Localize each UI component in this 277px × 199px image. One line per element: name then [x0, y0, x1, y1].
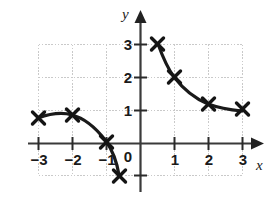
x-tick-label-neg2: −2: [63, 152, 83, 167]
x-axis: [28, 138, 264, 150]
y-tick-label-1: 1: [116, 103, 132, 118]
x-tick-label-2: 2: [199, 152, 219, 167]
x-tick-label-neg1: −1: [97, 152, 117, 167]
x-tick-label-neg3: −3: [29, 152, 49, 167]
x-axis-label: x: [256, 158, 263, 173]
y-axis-label: y: [122, 7, 129, 22]
graph-figure: y x −3 −2 −1 1 2 3 0 1 2 3: [0, 0, 277, 199]
y-axis-arrowhead: [135, 10, 147, 23]
origin-label: 0: [120, 149, 136, 164]
y-axis: [135, 10, 147, 192]
y-tick-label-2: 2: [116, 70, 132, 85]
x-tick-label-1: 1: [165, 152, 185, 167]
x-axis-arrowhead: [251, 138, 264, 150]
plot-canvas: [0, 0, 277, 199]
y-tick-label-3: 3: [116, 37, 132, 52]
x-tick-label-3: 3: [233, 152, 253, 167]
